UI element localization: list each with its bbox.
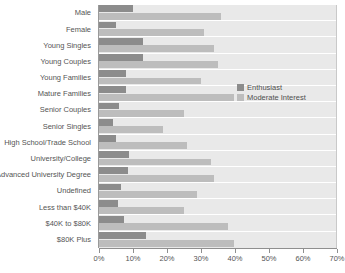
bar-row <box>99 151 336 167</box>
x-axis-tick <box>269 249 270 253</box>
bar-row <box>99 183 336 199</box>
x-axis-tick-label: 0% <box>94 255 105 263</box>
bar-enthusiast <box>99 54 143 61</box>
bar-enthusiast <box>99 151 129 158</box>
bar-enthusiast <box>99 167 128 174</box>
y-axis-label: Young Families <box>0 70 95 86</box>
x-axis-tick-label: 30% <box>193 255 208 263</box>
bar-enthusiast <box>99 103 119 110</box>
bar-row <box>99 102 336 118</box>
y-axis-label: Young Singles <box>0 37 95 53</box>
bar-row <box>99 232 336 248</box>
x-axis-tick-label: 20% <box>159 255 174 263</box>
x-axis-tick-label: 70% <box>329 255 344 263</box>
y-axis-label: $80K Plus <box>0 232 95 248</box>
bar-row <box>99 135 336 151</box>
bar-row <box>99 21 336 37</box>
bar-moderate <box>99 240 234 247</box>
bar-enthusiast <box>99 70 126 77</box>
y-axis-label: Female <box>0 21 95 37</box>
legend-item[interactable]: Enthusiast <box>237 84 306 92</box>
x-axis-tick <box>167 249 168 253</box>
y-axis-label: Advanced University Degree <box>0 167 95 183</box>
legend-label: Enthusiast <box>247 84 282 92</box>
bar-moderate <box>99 94 234 101</box>
bar-row <box>99 54 336 70</box>
x-axis-tick <box>99 249 100 253</box>
y-axis-category-labels: MaleFemaleYoung SinglesYoung CouplesYoun… <box>0 5 95 248</box>
legend-swatch-icon <box>237 84 244 91</box>
x-axis-tick-label: 50% <box>261 255 276 263</box>
x-axis-tick <box>337 249 338 253</box>
bar-moderate <box>99 61 218 68</box>
bar-rows <box>99 5 336 248</box>
x-axis-tick-label: 60% <box>295 255 310 263</box>
legend-item[interactable]: Moderate Interest <box>237 94 306 102</box>
x-axis-tick <box>235 249 236 253</box>
y-axis-label: $40K to $80K <box>0 215 95 231</box>
bar-enthusiast <box>99 216 124 223</box>
y-axis-label: Senior Couples <box>0 102 95 118</box>
bar-row <box>99 118 336 134</box>
bar-row <box>99 167 336 183</box>
bar-moderate <box>99 78 201 85</box>
x-axis-tick <box>133 249 134 253</box>
y-axis-label: University/College <box>0 151 95 167</box>
bar-moderate <box>99 45 214 52</box>
bar-enthusiast <box>99 5 133 12</box>
y-axis-label: Male <box>0 5 95 21</box>
bar-moderate <box>99 223 228 230</box>
legend-swatch-icon <box>237 94 244 101</box>
y-axis-label: Mature Families <box>0 86 95 102</box>
bar-moderate <box>99 175 214 182</box>
bar-moderate <box>99 13 221 20</box>
bar-moderate <box>99 110 184 117</box>
bar-moderate <box>99 29 204 36</box>
x-axis-tick-label: 40% <box>227 255 242 263</box>
bar-row <box>99 215 336 231</box>
legend-label: Moderate Interest <box>247 94 306 102</box>
bar-moderate <box>99 126 163 133</box>
y-axis-label: Young Couples <box>0 54 95 70</box>
bar-moderate <box>99 142 187 149</box>
bar-moderate <box>99 207 184 214</box>
y-axis-label: Undefined <box>0 183 95 199</box>
bar-moderate <box>99 191 197 198</box>
y-axis-label: High School/Trade School <box>0 135 95 151</box>
bar-moderate <box>99 159 211 166</box>
plot-area <box>99 5 337 248</box>
y-axis-label: Less than $40K <box>0 199 95 215</box>
bar-row <box>99 5 336 21</box>
bar-enthusiast <box>99 184 121 191</box>
x-axis-tick-labels: 0%10%20%30%40%50%60%70% <box>99 255 337 267</box>
bar-enthusiast <box>99 86 126 93</box>
x-axis-tick <box>303 249 304 253</box>
bar-enthusiast <box>99 232 146 239</box>
bar-enthusiast <box>99 119 113 126</box>
x-axis-tick <box>201 249 202 253</box>
chart-legend: EnthusiastModerate Interest <box>237 84 306 101</box>
bar-enthusiast <box>99 38 143 45</box>
bar-enthusiast <box>99 22 116 29</box>
bar-enthusiast <box>99 200 118 207</box>
y-axis-label: Senior Singles <box>0 118 95 134</box>
bar-row <box>99 37 336 53</box>
bar-enthusiast <box>99 135 116 142</box>
bar-row <box>99 199 336 215</box>
x-axis-tick-label: 10% <box>125 255 140 263</box>
